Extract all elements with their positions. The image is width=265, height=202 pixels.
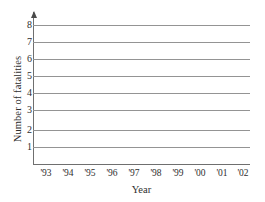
x-axis-tick-labels: '93 '94 '95 '96 '97 '98 '99 '00 '01 '02 — [0, 0, 265, 202]
x-tick-label: '02 — [228, 168, 258, 178]
chart-container: Number of fatalities 8 7 6 5 4 3 2 1 '93… — [0, 0, 265, 202]
x-axis-label: Year — [33, 184, 250, 195]
